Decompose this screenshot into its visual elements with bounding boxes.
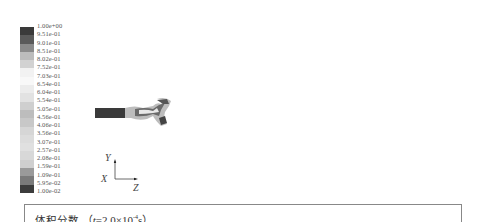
colorbar-band [20,27,34,35]
colorbar-tick-label: 2.57e-01 [37,146,62,153]
colorbar-band [20,160,34,168]
z-axis-label: Z [133,182,139,193]
colorbar-band [20,143,34,151]
colorbar-tick-label: 1.00e-02 [37,187,62,194]
colorbar-tick-label: 2.08e-01 [37,154,62,161]
caption-unit: s） [138,214,153,222]
caption-time-value: =2.0×10 [96,214,133,222]
colorbar-band [20,93,34,101]
colorbar-tick-label: 7.52e-01 [37,63,62,70]
colorbar-band [20,35,34,43]
colorbar-tick-label: 9.51e-01 [37,30,62,37]
colorbar-band [20,60,34,68]
colorbar-band [20,44,34,52]
colorbar-tick-label: 3.07e-01 [37,138,62,145]
colorbar-band [20,110,34,118]
jet-plume-contour [95,96,185,136]
colorbar-tick-label: 5.05e-01 [37,105,62,112]
colorbar-tick-label: 4.56e-01 [37,113,62,120]
colorbar [20,27,34,193]
caption-box: 体积分数 （t=2.0×10-4s） [24,204,462,222]
caption-open-paren: （ [82,214,93,222]
colorbar-tick-label: 7.03e-01 [37,72,62,79]
colorbar-tick-label: 3.56e-01 [37,129,62,136]
colorbar-band [20,77,34,85]
colorbar-band [20,102,34,110]
colorbar-band [20,135,34,143]
colorbar-band [20,68,34,76]
caption-title: 体积分数 [35,214,79,222]
colorbar-tick-label: 1.00e+00 [37,22,62,29]
axes-arrows-icon [95,152,155,192]
colorbar-band [20,85,34,93]
colorbar-band [20,176,34,184]
coordinate-axes: Y X Z [95,152,155,192]
colorbar-tick-label: 1.09e-01 [37,171,62,178]
figure-caption: 体积分数 （t=2.0×10-4s） [35,211,153,222]
colorbar-labels: 1.00e+009.51e-019.01e-018.51e-018.02e-01… [37,22,62,194]
colorbar-band [20,151,34,159]
colorbar-tick-label: 4.06e-01 [37,121,62,128]
y-axis-label: Y [105,152,111,163]
colorbar-tick-label: 1.59e-01 [37,162,62,169]
colorbar-tick-label: 6.54e-01 [37,80,62,87]
colorbar-tick-label: 8.51e-01 [37,47,62,54]
colorbar-band [20,168,34,176]
colorbar-band [20,52,34,60]
colorbar-tick-label: 5.95e-02 [37,179,62,186]
colorbar-band [20,118,34,126]
colorbar-tick-label: 9.01e-01 [37,39,62,46]
colorbar-tick-label: 5.54e-01 [37,96,62,103]
colorbar-band [20,127,34,135]
colorbar-tick-label: 8.02e-01 [37,55,62,62]
colorbar-tick-label: 6.04e-01 [37,88,62,95]
x-axis-label: X [101,173,107,184]
colorbar-band [20,185,34,193]
